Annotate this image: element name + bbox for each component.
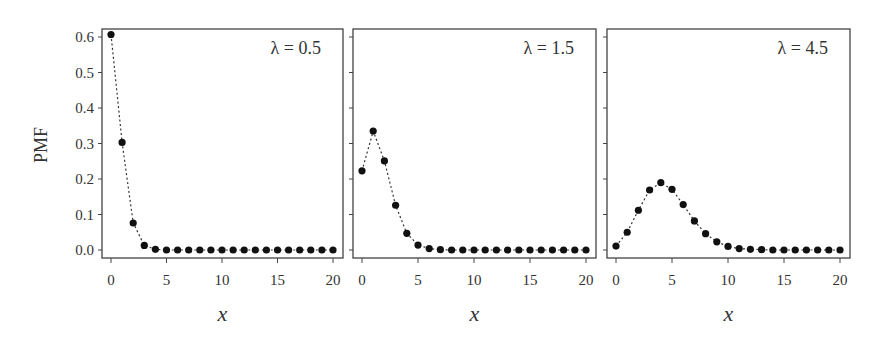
pmf-point	[252, 246, 259, 253]
x-tick-label: 5	[414, 272, 422, 288]
pmf-point	[119, 139, 126, 146]
poisson-pmf-figure: PMF 0.00.10.20.30.40.50.605101520xλ = 0.…	[0, 0, 878, 351]
y-tick-label: 0.6	[75, 29, 94, 45]
pmf-point	[504, 246, 511, 253]
pmf-point	[736, 245, 743, 252]
x-tick-label: 20	[326, 272, 341, 288]
pmf-point	[538, 246, 545, 253]
panel-lambda-0-5: 0.00.10.20.30.40.50.605101520xλ = 0.5	[75, 29, 343, 326]
plot-frame	[102, 29, 343, 258]
pmf-point	[702, 230, 709, 237]
pmf-point	[318, 246, 325, 253]
pmf-point	[515, 246, 522, 253]
pmf-point	[426, 245, 433, 252]
pmf-point	[470, 246, 477, 253]
x-axis-title: x	[469, 301, 480, 326]
x-tick-label: 15	[523, 272, 538, 288]
pmf-point	[381, 157, 388, 164]
pmf-point	[163, 246, 170, 253]
pmf-point	[582, 246, 589, 253]
pmf-point	[635, 207, 642, 214]
pmf-point	[459, 246, 466, 253]
x-tick-label: 0	[612, 272, 620, 288]
pmf-point	[185, 246, 192, 253]
x-tick-label: 20	[833, 272, 848, 288]
pmf-point	[493, 246, 500, 253]
y-tick-label: 0.4	[75, 100, 94, 116]
pmf-point	[549, 246, 556, 253]
pmf-point	[307, 246, 314, 253]
x-tick-label: 5	[163, 272, 171, 288]
y-tick-label: 0.0	[75, 242, 94, 258]
pmf-point	[780, 246, 787, 253]
x-tick-label: 0	[358, 272, 366, 288]
pmf-point	[274, 246, 281, 253]
pmf-point	[526, 246, 533, 253]
pmf-point	[414, 241, 421, 248]
pmf-point	[713, 238, 720, 245]
pmf-point	[218, 246, 225, 253]
pmf-point	[803, 246, 810, 253]
pmf-point	[207, 246, 214, 253]
pmf-point	[571, 246, 578, 253]
lambda-annotation: λ = 1.5	[524, 38, 574, 58]
pmf-point	[560, 246, 567, 253]
pmf-point	[680, 201, 687, 208]
pmf-point	[241, 246, 248, 253]
pmf-point	[747, 246, 754, 253]
pmf-point	[668, 186, 675, 193]
pmf-point	[196, 246, 203, 253]
pmf-point	[403, 230, 410, 237]
pmf-point	[296, 246, 303, 253]
pmf-point	[230, 246, 237, 253]
pmf-point	[370, 127, 377, 134]
pmf-point	[836, 246, 843, 253]
x-tick-label: 20	[579, 272, 594, 288]
pmf-point	[792, 246, 799, 253]
x-axis-title: x	[723, 301, 734, 326]
pmf-point	[130, 219, 137, 226]
pmf-point	[152, 246, 159, 253]
x-tick-label: 10	[721, 272, 736, 288]
pmf-point	[769, 246, 776, 253]
pmf-point	[285, 246, 292, 253]
y-tick-label: 0.3	[75, 136, 94, 152]
y-tick-label: 0.5	[75, 65, 94, 81]
pmf-point	[758, 246, 765, 253]
pmf-point	[141, 242, 148, 249]
pmf-point	[482, 246, 489, 253]
pmf-point	[624, 229, 631, 236]
x-tick-label: 15	[777, 272, 792, 288]
panel-lambda-1-5: 05101520xλ = 1.5	[349, 29, 596, 326]
pmf-point	[329, 246, 336, 253]
pmf-point	[448, 246, 455, 253]
y-tick-label: 0.1	[75, 207, 94, 223]
pmf-point	[825, 246, 832, 253]
x-tick-label: 15	[270, 272, 285, 288]
plot-frame	[353, 29, 596, 258]
y-axis-title: PMF	[31, 127, 51, 163]
x-tick-label: 10	[467, 272, 482, 288]
pmf-point	[814, 246, 821, 253]
pmf-point	[646, 186, 653, 193]
lambda-annotation: λ = 0.5	[271, 38, 321, 58]
x-tick-label: 10	[215, 272, 230, 288]
x-tick-label: 0	[107, 272, 115, 288]
x-axis-title: x	[217, 301, 228, 326]
pmf-point	[358, 167, 365, 174]
x-tick-label: 5	[668, 272, 676, 288]
y-tick-label: 0.2	[75, 171, 94, 187]
pmf-point	[392, 202, 399, 209]
plot-frame	[607, 29, 850, 258]
pmf-point	[437, 246, 444, 253]
pmf-point	[657, 179, 664, 186]
lambda-annotation: λ = 4.5	[778, 38, 828, 58]
pmf-point	[612, 242, 619, 249]
pmf-point	[724, 243, 731, 250]
pmf-point	[691, 217, 698, 224]
pmf-point	[263, 246, 270, 253]
pmf-point	[107, 31, 114, 38]
panel-lambda-4-5: 05101520xλ = 4.5	[603, 29, 850, 326]
pmf-point	[174, 246, 181, 253]
